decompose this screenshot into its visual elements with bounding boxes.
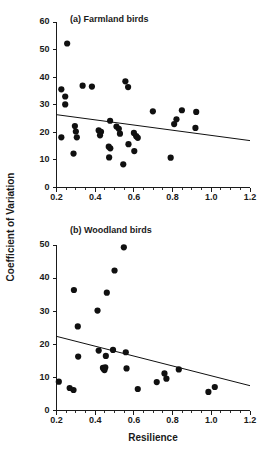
panel-a-trend-line <box>57 115 251 141</box>
data-point <box>122 78 128 84</box>
scatter-plot-figure: (a) Farmland birds 0102030405060 0.20.40… <box>0 0 273 454</box>
data-point <box>103 353 109 359</box>
data-point <box>123 365 129 371</box>
x-axis-label: Resilience <box>128 432 178 443</box>
panel-b-y-ticklabels: 01020304050 <box>39 239 49 415</box>
y-tick-label: 60 <box>39 16 49 26</box>
y-tick-label: 30 <box>39 306 49 316</box>
data-point <box>121 244 127 250</box>
x-tick-label: 0.8 <box>166 415 179 425</box>
panel-a-points <box>58 40 199 167</box>
y-tick-label: 50 <box>39 239 49 249</box>
panel-b-trend-line <box>57 336 251 385</box>
y-tick-label: 10 <box>39 372 49 382</box>
data-point <box>120 161 126 167</box>
y-tick-label: 40 <box>39 272 49 282</box>
y-tick-label: 40 <box>39 72 49 82</box>
data-point <box>107 145 113 151</box>
data-point <box>56 379 62 385</box>
data-point <box>75 323 81 329</box>
data-point <box>73 128 79 134</box>
y-tick-label: 20 <box>39 127 49 137</box>
data-point <box>212 384 218 390</box>
x-tick-label: 0.2 <box>50 192 63 202</box>
data-point <box>117 131 123 137</box>
panel-b-x-ticklabels: 0.20.40.60.81.01.2 <box>50 415 256 425</box>
panel-a-y-ticklabels: 0102030405060 <box>39 16 49 192</box>
x-tick-label: 1.2 <box>244 415 257 425</box>
regression-line <box>57 115 251 141</box>
panel-b-points <box>56 244 218 395</box>
data-point <box>106 154 112 160</box>
data-point <box>131 148 137 154</box>
data-point <box>173 116 179 122</box>
data-point <box>97 132 103 138</box>
panel-a-x-ticks <box>57 188 251 192</box>
data-point <box>94 307 100 313</box>
data-point <box>96 347 102 353</box>
data-point <box>161 370 167 376</box>
data-point <box>64 40 70 46</box>
panel-a-y-ticks <box>53 22 57 188</box>
y-tick-label: 30 <box>39 99 49 109</box>
panel-a-title: (a) Farmland birds <box>70 14 149 24</box>
panel-a-y-axis: 0102030405060 <box>39 16 56 192</box>
data-point <box>150 108 156 114</box>
x-tick-label: 0.8 <box>166 192 179 202</box>
data-point <box>135 386 141 392</box>
x-tick-label: 0.2 <box>50 415 63 425</box>
y-tick-label: 0 <box>44 405 49 415</box>
panel-b-title: (b) Woodland birds <box>70 225 152 235</box>
data-point <box>74 134 80 140</box>
y-tick-label: 10 <box>39 154 49 164</box>
regression-line <box>57 336 251 385</box>
data-point <box>62 101 68 107</box>
x-tick-label: 1.2 <box>244 192 257 202</box>
data-point <box>70 150 76 156</box>
data-point <box>163 376 169 382</box>
data-point <box>205 389 211 395</box>
data-point <box>135 135 141 141</box>
x-tick-label: 1.0 <box>205 415 218 425</box>
panel-woodland-birds: (b) Woodland birds 01020304050 0.20.40.6… <box>39 225 256 425</box>
panel-b-y-ticks <box>53 245 57 411</box>
y-axis-label: Coefficient of Variation <box>5 173 16 282</box>
data-point <box>168 155 174 161</box>
panel-b-x-ticks <box>57 411 251 415</box>
y-tick-label: 20 <box>39 339 49 349</box>
data-point <box>89 83 95 89</box>
panel-b-x-axis: 0.20.40.60.81.01.2 <box>50 411 256 426</box>
y-tick-label: 50 <box>39 44 49 54</box>
data-point <box>58 134 64 140</box>
data-point <box>193 109 199 115</box>
panel-b-y-axis: 01020304050 <box>39 239 56 415</box>
data-point <box>70 387 76 393</box>
data-point <box>104 290 110 296</box>
figure-container: (a) Farmland birds 0102030405060 0.20.40… <box>0 0 273 454</box>
x-tick-label: 0.6 <box>128 192 141 202</box>
x-tick-label: 1.0 <box>205 192 218 202</box>
panel-a-x-ticklabels: 0.20.40.60.81.01.2 <box>50 192 256 202</box>
data-point <box>107 118 113 124</box>
data-point <box>111 267 117 273</box>
data-point <box>80 83 86 89</box>
data-point <box>125 141 131 147</box>
data-point <box>179 107 185 113</box>
data-point <box>125 84 131 90</box>
data-point <box>102 364 108 370</box>
y-tick-label: 0 <box>44 182 49 192</box>
data-point <box>192 125 198 131</box>
panel-farmland-birds: (a) Farmland birds 0102030405060 0.20.40… <box>39 14 256 202</box>
x-tick-label: 0.4 <box>89 415 102 425</box>
data-point <box>71 287 77 293</box>
data-point <box>154 379 160 385</box>
x-tick-label: 0.4 <box>89 192 102 202</box>
data-point <box>62 93 68 99</box>
x-tick-label: 0.6 <box>128 415 141 425</box>
panel-a-x-axis: 0.20.40.60.81.01.2 <box>50 188 256 203</box>
data-point <box>72 123 78 129</box>
data-point <box>58 86 64 92</box>
data-point <box>75 353 81 359</box>
